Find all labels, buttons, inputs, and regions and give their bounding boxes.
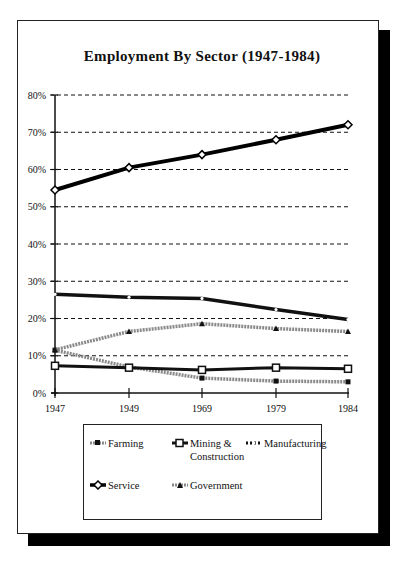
data-point xyxy=(200,376,205,381)
axes xyxy=(51,95,349,398)
series-line-government xyxy=(55,324,348,350)
data-point xyxy=(345,365,352,372)
data-point xyxy=(346,318,349,321)
legend-item-service: Service xyxy=(90,479,140,492)
y-tick-label: 10% xyxy=(28,350,46,361)
data-point xyxy=(53,293,56,296)
legend-item-government: Government xyxy=(172,479,243,492)
legend: Farming Mining &Construction Manufacturi… xyxy=(83,424,322,520)
y-tick-label: 30% xyxy=(28,276,46,287)
farming-marker-icon xyxy=(90,438,106,448)
y-tick-label: 20% xyxy=(28,313,46,324)
manufacturing-marker-icon xyxy=(246,438,262,448)
legend-item-mining: Mining &Construction xyxy=(172,437,244,463)
data-point xyxy=(198,151,206,159)
legend-item-manufacturing: Manufacturing xyxy=(246,437,326,450)
series-lines xyxy=(51,121,352,385)
x-tick-label: 1949 xyxy=(119,403,139,414)
data-point xyxy=(199,366,206,373)
legend-label-service: Service xyxy=(108,479,140,492)
y-tick-label: 50% xyxy=(28,201,46,212)
data-point xyxy=(274,379,279,384)
y-tick-label: 80% xyxy=(28,90,46,101)
x-tick-label: 1979 xyxy=(266,403,286,414)
data-point xyxy=(346,379,351,384)
data-point xyxy=(52,362,59,369)
legend-label-mining: Mining &Construction xyxy=(190,437,244,463)
x-tick-label: 1947 xyxy=(45,403,65,414)
x-tick-label: 1969 xyxy=(192,403,212,414)
x-tick-label: 1984 xyxy=(338,403,358,414)
data-point xyxy=(200,297,203,300)
legend-item-farming: Farming xyxy=(90,437,144,450)
data-point xyxy=(274,308,277,311)
mining-marker-icon xyxy=(172,438,188,448)
legend-label-farming: Farming xyxy=(108,437,144,450)
data-point xyxy=(273,364,280,371)
data-point xyxy=(126,364,133,371)
data-point xyxy=(272,136,280,144)
legend-label-manufacturing: Manufacturing xyxy=(264,437,326,450)
y-tick-label: 60% xyxy=(28,164,46,175)
y-tick-label: 70% xyxy=(28,127,46,138)
service-marker-icon xyxy=(90,480,106,490)
data-point xyxy=(345,329,351,335)
y-tick-label: 40% xyxy=(28,239,46,250)
data-point xyxy=(127,296,130,299)
data-point xyxy=(344,121,352,129)
legend-label-government: Government xyxy=(190,479,243,492)
government-marker-icon xyxy=(172,480,188,490)
y-tick-label: 0% xyxy=(33,388,46,399)
